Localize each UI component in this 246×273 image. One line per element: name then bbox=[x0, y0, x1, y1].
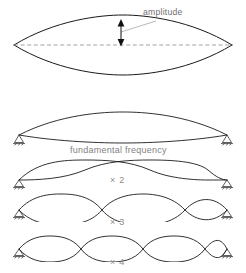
harmonic-curve-upper bbox=[19, 112, 227, 135]
support-right bbox=[221, 180, 233, 189]
amplitude-leader-line bbox=[121, 21, 156, 32]
harmonic-label-fundamental: fundamental frequency bbox=[70, 146, 167, 155]
support-right bbox=[221, 135, 233, 145]
harmonic-fundamental-diagram bbox=[0, 110, 246, 146]
harmonic-curve-lower bbox=[19, 135, 227, 143]
amplitude-label: amplitude bbox=[143, 8, 183, 17]
amplitude-envelope-lower-curve bbox=[14, 45, 232, 75]
harmonic-label-x3: × 3 bbox=[110, 218, 125, 227]
support-right bbox=[221, 249, 233, 258]
amplitude-double-arrow-icon bbox=[118, 19, 125, 47]
harmonic-label-x4: × 4 bbox=[110, 258, 125, 267]
support-left bbox=[13, 210, 25, 219]
harmonic-second-diagram bbox=[0, 158, 246, 190]
support-right bbox=[221, 210, 233, 219]
support-left bbox=[13, 180, 25, 189]
support-left bbox=[13, 135, 25, 145]
amplitude-detail-diagram bbox=[0, 0, 246, 105]
harmonics-figure: amplitude fundamental frequency bbox=[0, 0, 246, 273]
harmonic-label-x2: × 2 bbox=[110, 176, 125, 185]
